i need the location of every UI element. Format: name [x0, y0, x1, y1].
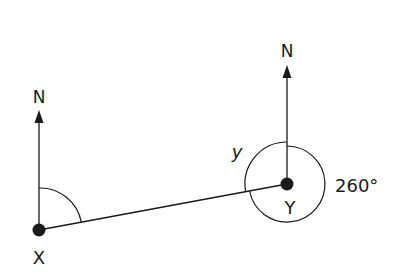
north-label-y: N	[281, 41, 294, 61]
angle-label-y: y	[231, 141, 243, 162]
angle-label-260: 260°	[335, 175, 378, 196]
point-x	[33, 224, 46, 237]
angle-arc-x	[39, 188, 81, 222]
north-arrow-icon-x	[35, 110, 44, 123]
bearings-diagram: N X N Y y 260°	[0, 0, 405, 277]
north-arrow-icon-y	[283, 65, 292, 78]
point-label-y: Y	[284, 197, 297, 218]
north-label-x: N	[33, 87, 46, 107]
point-y	[281, 178, 294, 191]
line-xy	[39, 184, 287, 230]
point-label-x: X	[33, 247, 45, 268]
